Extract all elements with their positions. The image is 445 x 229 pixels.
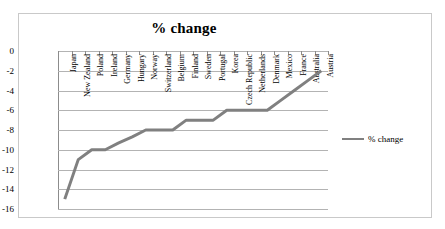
y-tick-label: -2 — [0, 66, 14, 76]
gridline — [58, 209, 328, 210]
y-tick-label: -10 — [0, 145, 14, 155]
y-tick-label: -16 — [0, 204, 14, 214]
chart-title: % change — [19, 20, 349, 37]
plot-area: 0-2-4-6-8-10-12-14-16 JapanNew ZealandPo… — [58, 51, 328, 209]
legend-label: % change — [368, 134, 403, 144]
chart-legend: % change — [342, 134, 403, 144]
series-line-percent-change — [58, 51, 328, 209]
y-tick-label: -4 — [0, 86, 14, 96]
legend-line-swatch — [342, 138, 364, 140]
chart-frame: % change 0-2-4-6-8-10-12-14-16 JapanNew … — [18, 13, 432, 218]
y-tick-label: -12 — [0, 165, 14, 175]
y-tick-label: -14 — [0, 184, 14, 194]
y-tick-label: -8 — [0, 125, 14, 135]
y-tick-label: 0 — [0, 46, 14, 56]
y-tick-label: -6 — [0, 105, 14, 115]
